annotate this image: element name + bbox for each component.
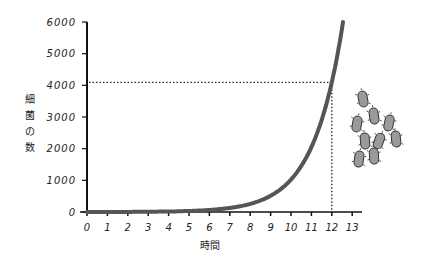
x-tick-label: 11 <box>305 222 318 233</box>
y-tick-label: 0 <box>69 207 76 218</box>
bacteria-illustration <box>349 87 404 168</box>
x-tick-label: 5 <box>186 222 192 233</box>
x-tick-label: 12 <box>325 222 338 233</box>
x-tick-label: 0 <box>84 222 90 233</box>
bacterium-icon <box>351 147 367 167</box>
x-tick-label: 10 <box>285 222 298 233</box>
y-tick-label: 2000 <box>47 143 76 154</box>
bacterium-icon <box>366 104 382 124</box>
y-tick-label: 1000 <box>47 175 76 186</box>
growth-curve <box>87 22 343 212</box>
bacterium-icon <box>354 87 371 108</box>
y-axis-title: 細菌の数 <box>25 93 35 153</box>
y-tick-label: 4000 <box>47 80 76 91</box>
y-tick-label: 5000 <box>47 48 76 59</box>
y-tick-label: 3000 <box>47 112 76 123</box>
chart-canvas: 0100020003000400050006000 01234567891011… <box>0 0 422 260</box>
x-tick-label: 3 <box>145 222 151 233</box>
x-tick-label: 7 <box>227 222 234 233</box>
x-tick-label: 2 <box>125 222 131 233</box>
x-tick-label: 6 <box>206 222 212 233</box>
y-tick-label: 6000 <box>47 17 76 28</box>
x-tick-label: 13 <box>346 222 359 233</box>
x-tick-label: 4 <box>165 222 171 233</box>
bacterium-icon <box>357 130 372 150</box>
y-axis-label: 細菌の数 <box>25 93 35 153</box>
y-axis-ticks: 0100020003000400050006000 <box>47 17 87 218</box>
x-tick-label: 9 <box>267 222 273 233</box>
x-tick-label: 8 <box>247 222 253 233</box>
x-axis-label: 時間 <box>200 240 220 251</box>
bacterium-icon <box>370 129 389 151</box>
x-tick-label: 1 <box>104 222 110 233</box>
bacterium-icon <box>349 112 366 133</box>
x-axis-ticks: 012345678910111213 <box>84 212 359 233</box>
